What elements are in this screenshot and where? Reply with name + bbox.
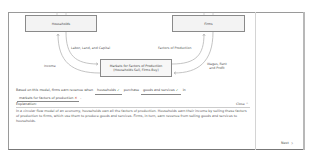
sentence-prefix: Based on this model, firms earn revenue … [16, 88, 93, 92]
factor-markets-box: Markets for Factors of Production (House… [100, 59, 172, 77]
dropdown-blank-1[interactable]: households ✓ [95, 87, 122, 95]
sentence-middle: purchase [124, 88, 139, 92]
explanation-divider [16, 107, 250, 108]
households-label: Households [52, 22, 71, 26]
close-explanation-button[interactable]: Close ^ [236, 102, 248, 106]
wages-rent-profit-label: Wages, Rent and Profit [207, 62, 227, 70]
x-icon: ✕ [74, 96, 77, 100]
blank-2-value: goods and services [143, 88, 175, 92]
labor-land-capital-label: Labor, Land, and Capital [71, 46, 110, 50]
explanation-heading: Explanation: [16, 102, 37, 106]
dropdown-blank-3[interactable]: markets for factors of production ✕ [17, 95, 79, 103]
factors-of-production-label: Factors of Production [158, 46, 191, 50]
chevron-up-icon: ^ [246, 102, 249, 106]
blank-1-value: households [97, 88, 116, 92]
next-button[interactable]: Next › [281, 140, 293, 145]
blank-3-value: markets for factors of production [19, 96, 73, 100]
income-label: Income [44, 64, 56, 68]
explanation-text: In a circular flow model of an economy, … [16, 109, 250, 125]
firms-box: Firms [172, 15, 245, 32]
sentence-middle-2: in [183, 88, 186, 92]
markets-subtitle: (Households Sell, Firms Buy) [110, 68, 163, 72]
sentence-suffix: . [80, 96, 81, 100]
next-label: Next [281, 141, 289, 145]
chevron-right-icon: › [291, 140, 293, 145]
firms-label: Firms [204, 22, 213, 26]
dropdown-blank-2[interactable]: goods and services ✓ [141, 87, 181, 95]
close-label: Close [236, 102, 245, 106]
check-icon: ✓ [117, 88, 120, 92]
fill-in-sentence: Based on this model, firms earn revenue … [16, 87, 252, 102]
check-icon: ✓ [176, 88, 179, 92]
wages-line-2: and Profit [207, 66, 227, 70]
households-box: Households [25, 15, 97, 32]
